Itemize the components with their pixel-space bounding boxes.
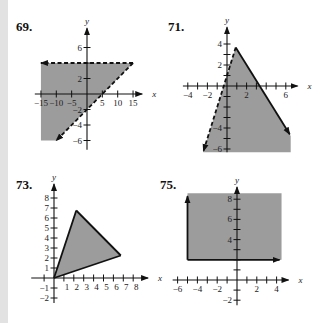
graph-75-plot: −6−4−224864−2xy [0,0,319,323]
y-axis-label: y [234,175,239,185]
x-tick-label: 2 [255,284,260,294]
y-tick-label: −2 [222,295,232,305]
x-tick-label: −6 [173,284,183,294]
x-tick-label: −4 [193,284,203,294]
x-tick-label: −2 [212,284,222,294]
y-tick-label: 4 [228,235,233,245]
x-tick-label: 4 [274,284,279,294]
graph-75: 75. −6−4−224864−2xy [0,0,319,323]
x-axis-label: x [297,275,302,285]
y-tick-label: 6 [228,214,233,224]
y-tick-label: 8 [228,194,233,204]
